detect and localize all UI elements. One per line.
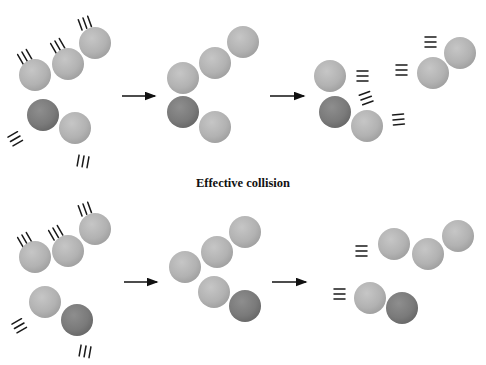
light-atom bbox=[59, 112, 91, 144]
light-atom bbox=[229, 216, 261, 248]
light-atom bbox=[199, 47, 231, 79]
light-atom bbox=[198, 276, 230, 308]
motion-lines-icon bbox=[356, 246, 367, 256]
light-atom bbox=[79, 27, 111, 59]
light-atom bbox=[167, 62, 199, 94]
light-atom bbox=[79, 213, 111, 245]
light-atom bbox=[442, 220, 474, 252]
motion-lines-icon bbox=[357, 71, 368, 81]
motion-lines-icon bbox=[359, 92, 373, 105]
dark-atom bbox=[386, 292, 418, 324]
motion-lines-icon bbox=[8, 132, 23, 146]
dark-atom bbox=[27, 99, 59, 131]
dark-atom bbox=[167, 96, 199, 128]
motion-lines-icon bbox=[12, 319, 27, 333]
light-atom bbox=[169, 251, 201, 283]
light-atom bbox=[351, 110, 383, 142]
motion-lines-icon bbox=[334, 289, 345, 299]
light-atom bbox=[444, 37, 476, 69]
light-atom bbox=[201, 236, 233, 268]
light-atom bbox=[52, 235, 84, 267]
light-atom bbox=[314, 60, 346, 92]
light-atom bbox=[19, 241, 51, 273]
effective-collision-caption: Effective collision bbox=[0, 176, 486, 191]
motion-lines-icon bbox=[425, 37, 436, 47]
dark-atom bbox=[61, 304, 93, 336]
light-atom bbox=[52, 48, 84, 80]
light-atom bbox=[417, 57, 449, 89]
light-atom bbox=[227, 26, 259, 58]
light-atom bbox=[199, 111, 231, 143]
light-atom bbox=[29, 286, 61, 318]
light-atom bbox=[354, 282, 386, 314]
motion-lines-icon bbox=[396, 65, 407, 75]
motion-lines-icon bbox=[77, 155, 89, 168]
motion-lines-icon bbox=[79, 345, 91, 358]
dark-atom bbox=[319, 96, 351, 128]
dark-atom bbox=[229, 290, 261, 322]
motion-lines-icon bbox=[393, 114, 405, 125]
light-atom bbox=[412, 238, 444, 270]
light-atom bbox=[19, 59, 51, 91]
light-atom bbox=[378, 228, 410, 260]
